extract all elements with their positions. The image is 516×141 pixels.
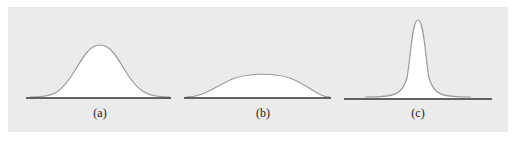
label-b: (b) (256, 106, 270, 120)
curve-b (184, 74, 331, 98)
distribution-figure: (a) (b) (c) (0, 0, 516, 141)
curve-a (26, 45, 171, 98)
label-c: (c) (411, 106, 424, 120)
label-a: (a) (93, 106, 106, 120)
curve-c (344, 20, 492, 99)
